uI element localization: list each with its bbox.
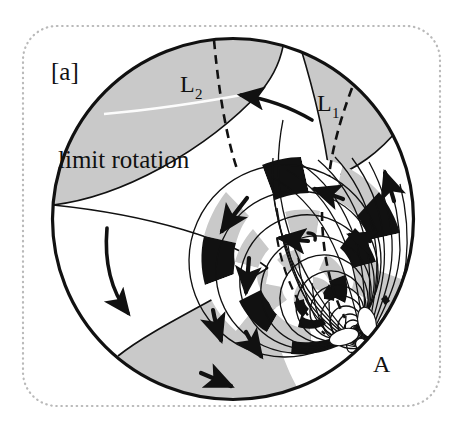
label-L2-base: L [180,71,195,97]
figure-root: [a] limit rotation L 2 L 1 A [0,0,464,428]
ideal-point-label-A: A [373,351,391,377]
limit-rotation-label: limit rotation [58,146,190,173]
label-L1-base: L [317,90,332,116]
label-L2-sub: 2 [195,86,203,102]
poincare-disk-figure: [a] limit rotation L 2 L 1 A [0,0,464,428]
panel-label: [a] [51,58,79,85]
label-L1-sub: 1 [332,105,340,121]
